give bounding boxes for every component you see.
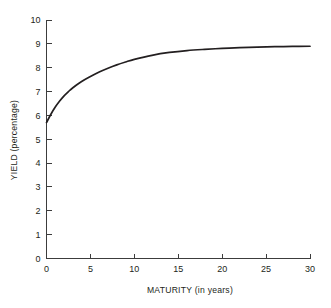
chart-figure: 012345678910 051015202530 YIELD (percent… (0, 0, 331, 308)
y-tick-label: 6 (35, 111, 40, 121)
x-tick-label: 25 (261, 264, 271, 274)
x-tick-label: 5 (88, 264, 93, 274)
y-tick-label: 5 (35, 135, 40, 145)
x-tick-label: 10 (129, 264, 139, 274)
x-tick-label: 20 (217, 264, 227, 274)
yield-curve-line (47, 46, 311, 122)
x-axis-title: MATURITY (in years) (147, 285, 233, 295)
y-tick-label: 2 (35, 206, 40, 216)
y-tick-label: 4 (35, 158, 40, 168)
x-tick-label: 15 (173, 264, 183, 274)
y-axis-ticks: 012345678910 (30, 15, 51, 263)
y-axis-title: YIELD (percentage) (9, 100, 19, 180)
x-tick-label: 30 (305, 264, 315, 274)
y-tick-label: 9 (35, 39, 40, 49)
y-tick-label: 3 (35, 182, 40, 192)
y-tick-label: 10 (30, 15, 40, 25)
x-axis-ticks: 051015202530 (44, 254, 315, 274)
x-tick-label: 0 (44, 264, 49, 274)
y-tick-label: 8 (35, 63, 40, 73)
yield-curve-chart: 012345678910 051015202530 YIELD (percent… (0, 0, 331, 308)
y-tick-label: 7 (35, 87, 40, 97)
y-tick-label: 1 (35, 230, 40, 240)
y-tick-label: 0 (35, 254, 40, 264)
